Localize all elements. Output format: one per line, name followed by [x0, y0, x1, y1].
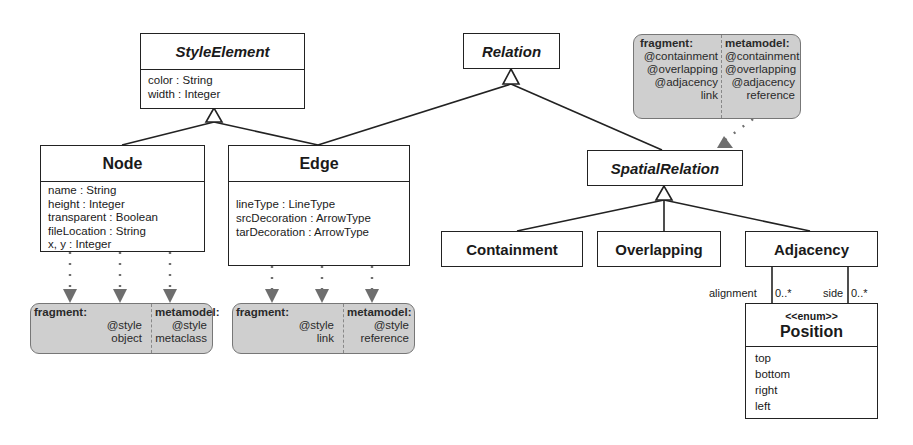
note-arrow-icon [717, 136, 733, 148]
note-label: fragment: [640, 37, 718, 50]
literal-list: top bottom right left [746, 347, 877, 417]
attribute: transparent : Boolean [48, 211, 197, 225]
note-value: @adjacency [725, 76, 795, 89]
note-value: reference [725, 89, 795, 102]
note-value: @style [347, 319, 409, 332]
class-adjacency[interactable]: Adjacency [745, 231, 878, 267]
enum-literal: bottom [755, 366, 870, 382]
attribute: color : String [148, 73, 297, 87]
attribute-list: lineType : LineType srcDecoration : Arro… [229, 182, 409, 242]
attribute-list: color : String width : Integer [141, 70, 304, 104]
enum-position[interactable]: <<enum>> Position top bottom right left [745, 303, 878, 419]
attribute: x, y : Integer [48, 238, 197, 252]
note-divider [721, 35, 722, 118]
note-metamodel-column: metamodel: @containment @overlapping @ad… [725, 37, 795, 102]
note-value: @style [236, 319, 334, 332]
class-name: StyleElement [141, 34, 304, 70]
note-arrow-icon [365, 289, 379, 303]
class-style-element[interactable]: StyleElement color : String width : Inte… [140, 33, 305, 109]
class-name: Relation [464, 34, 559, 68]
note-label: metamodel: [155, 306, 217, 319]
attribute: name : String [48, 184, 197, 198]
class-overlapping[interactable]: Overlapping [597, 231, 721, 267]
note-fragment-column: fragment: @containment @overlapping @adj… [640, 37, 718, 102]
class-node[interactable]: Node name : String height : Integer tran… [40, 145, 205, 252]
note-value: @containment [640, 50, 718, 63]
note-divider [343, 304, 344, 353]
note-value: @adjacency [640, 76, 718, 89]
class-name: Containment [442, 232, 582, 266]
enum-literal: top [755, 350, 870, 366]
class-name: Node [41, 146, 204, 182]
class-name: Position [780, 322, 843, 341]
note-node-mapping: fragment: @style object metamodel: @styl… [30, 303, 213, 354]
note-edge-mapping: fragment: @style link metamodel: @style … [232, 303, 415, 354]
attribute: tarDecoration : ArrowType [236, 225, 402, 239]
class-name: Overlapping [598, 232, 720, 266]
generalization-arrow-icon [656, 186, 672, 200]
note-value: object [34, 332, 142, 345]
class-name: SpatialRelation [588, 151, 742, 185]
multiplicity-side: 0..* [851, 287, 868, 299]
note-value: @overlapping [725, 63, 795, 76]
note-label: fragment: [236, 306, 334, 319]
note-value: @style [155, 319, 207, 332]
note-fragment-column: fragment: @style link [236, 306, 334, 345]
attribute-list: name : String height : Integer transpare… [41, 182, 204, 255]
note-arrow-icon [315, 289, 329, 303]
class-name: Edge [229, 146, 409, 182]
note-arrow-icon [265, 289, 279, 303]
attribute: lineType : LineType [236, 197, 402, 211]
note-label: fragment: [34, 306, 142, 319]
generalization-arrow-icon [206, 108, 222, 122]
class-name: Adjacency [746, 232, 877, 266]
attribute: width : Integer [148, 87, 297, 101]
note-value: link [640, 89, 718, 102]
enum-literal: right [755, 382, 870, 398]
attribute: srcDecoration : ArrowType [236, 211, 402, 225]
role-side: side [823, 287, 843, 299]
generalization-arrow-icon [503, 69, 519, 84]
enum-header: <<enum>> Position [746, 304, 877, 347]
note-arrow-icon [63, 289, 77, 303]
note-divider [151, 304, 152, 353]
note-label: metamodel: [347, 306, 409, 319]
note-value: reference [347, 332, 409, 345]
note-value: @style [34, 319, 142, 332]
note-arrow-icon [113, 289, 127, 303]
note-metamodel-column: metamodel: @style reference [347, 306, 409, 345]
note-fragment-column: fragment: @style object [34, 306, 142, 345]
attribute: height : Integer [48, 198, 197, 212]
note-label: metamodel: [725, 37, 795, 50]
class-relation[interactable]: Relation [463, 33, 560, 69]
note-metamodel-column: metamodel: @style metaclass [155, 306, 207, 345]
note-arrow-icon [163, 289, 177, 303]
multiplicity-alignment: 0..* [775, 287, 792, 299]
stereotype: <<enum>> [785, 310, 838, 322]
note-value: link [236, 332, 334, 345]
class-containment[interactable]: Containment [441, 231, 583, 267]
class-edge[interactable]: Edge lineType : LineType srcDecoration :… [228, 145, 410, 266]
role-alignment: alignment [709, 287, 757, 299]
enum-literal: left [755, 398, 870, 414]
note-relation-mapping: fragment: @containment @overlapping @adj… [633, 34, 801, 119]
note-value: metaclass [155, 332, 207, 345]
note-value: @overlapping [640, 63, 718, 76]
note-value: @containment [725, 50, 795, 63]
class-spatial-relation[interactable]: SpatialRelation [587, 150, 743, 186]
attribute: fileLocation : String [48, 225, 197, 239]
